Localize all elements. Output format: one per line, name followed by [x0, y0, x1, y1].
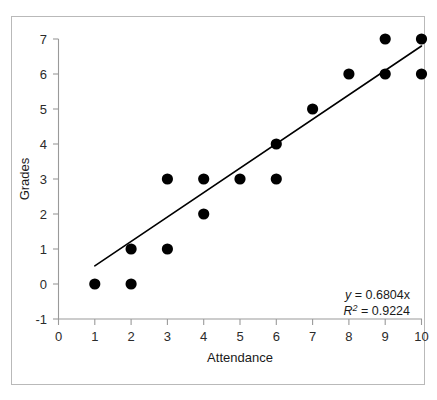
- data-point: [380, 33, 391, 44]
- data-point: [89, 278, 100, 289]
- y-axis-title: Grades: [17, 157, 32, 200]
- x-axis-ticks: [59, 319, 422, 325]
- y-tick-label: 3: [40, 172, 47, 187]
- y-tick-label: 1: [40, 242, 47, 257]
- regression-annotation: y = 0.6804x R2 = 0.9224: [343, 288, 410, 318]
- equation-expression: = 0.6804x: [351, 288, 410, 302]
- x-tick-label: 5: [236, 329, 243, 344]
- y-tick-label: -1: [35, 312, 47, 327]
- x-tick-label: 0: [55, 329, 62, 344]
- data-point: [198, 173, 209, 184]
- y-tick-label: 4: [40, 137, 47, 152]
- r-squared-value: = 0.9224: [358, 304, 411, 318]
- data-point: [380, 68, 391, 79]
- y-tick-label: 2: [40, 207, 47, 222]
- x-tick-label: 9: [382, 329, 389, 344]
- x-tick-label: 1: [91, 329, 98, 344]
- data-point: [416, 33, 427, 44]
- x-axis-tick-labels: 0 1 2 3 4 5 6 7 8 9 10: [55, 329, 429, 344]
- x-tick-label: 2: [127, 329, 134, 344]
- data-point: [234, 173, 245, 184]
- data-point: [162, 173, 173, 184]
- y-tick-label: 7: [40, 32, 47, 47]
- x-tick-label: 8: [345, 329, 352, 344]
- scatter-plot-figure: 7 6 5 4 3 2 1 0 -1 0 1 2: [0, 0, 437, 400]
- chart-canvas: 7 6 5 4 3 2 1 0 -1 0 1 2: [0, 0, 437, 400]
- data-point: [198, 208, 209, 219]
- data-point: [307, 103, 318, 114]
- x-tick-label: 7: [309, 329, 316, 344]
- trend-line: [95, 46, 422, 266]
- r-squared-variable: R: [343, 304, 352, 318]
- data-point: [126, 278, 137, 289]
- y-axis-tick-labels: 7 6 5 4 3 2 1 0 -1: [35, 32, 47, 327]
- x-tick-label: 3: [164, 329, 171, 344]
- y-tick-label: 0: [40, 277, 47, 292]
- data-point: [343, 68, 354, 79]
- x-axis-title: Attendance: [207, 350, 273, 365]
- r-squared-line: R2 = 0.9224: [343, 303, 410, 318]
- x-tick-label: 6: [273, 329, 280, 344]
- data-point: [271, 173, 282, 184]
- x-tick-label: 4: [200, 329, 207, 344]
- data-point: [162, 243, 173, 254]
- y-tick-label: 5: [40, 102, 47, 117]
- data-point: [126, 243, 137, 254]
- data-point: [416, 68, 427, 79]
- data-point: [271, 138, 282, 149]
- data-points-group: [89, 33, 427, 289]
- equation-line: y = 0.6804x: [344, 288, 411, 302]
- x-tick-label: 10: [414, 329, 428, 344]
- y-axis-ticks: [53, 39, 59, 319]
- y-tick-label: 6: [40, 67, 47, 82]
